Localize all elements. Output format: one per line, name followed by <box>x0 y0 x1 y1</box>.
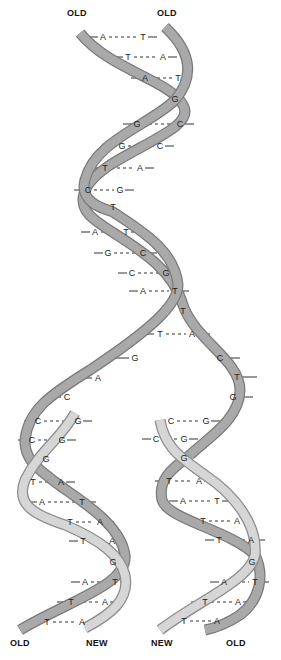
right-daughter-base: A <box>180 496 186 506</box>
right-daughter-base: G <box>248 557 255 567</box>
parent-base: C <box>85 185 92 195</box>
right-daughter-base: G <box>180 434 187 444</box>
fork-right-base: C <box>217 353 224 363</box>
fork-left-base: T <box>157 329 163 339</box>
left-daughter-base: G <box>58 435 65 445</box>
left-daughter-base: A <box>82 577 88 587</box>
right-daughter-base: T <box>181 616 187 626</box>
left-daughter-base: A <box>79 617 85 627</box>
left-daughter-base: G <box>74 416 81 426</box>
right-daughter-base: A <box>234 516 240 526</box>
right-daughter-base: T <box>200 516 206 526</box>
fork-right-base: G <box>229 392 236 402</box>
parent-base: T <box>110 202 116 212</box>
left-daughter-base: A <box>39 497 45 507</box>
parent-base: T <box>172 286 178 296</box>
parent-base: G <box>133 119 140 129</box>
right-daughter-base: T <box>252 577 258 587</box>
left-daughter-base: T <box>112 577 118 587</box>
right-daughter-base: T <box>166 476 172 486</box>
right-daughter-base: T <box>214 496 220 506</box>
left-daughter-base: T <box>67 517 73 527</box>
parent-base: T <box>175 73 181 83</box>
helix-drawing: ATTAATGGCGCTACGTATGCCGATTCGCGGTAATTATAGA… <box>0 0 281 660</box>
right-daughter-base: G <box>180 453 187 463</box>
left-daughter-base: T <box>30 477 36 487</box>
fork-left-base: G <box>131 353 138 363</box>
left-daughter-base: A <box>109 536 115 546</box>
right-daughter-base: T <box>216 535 222 545</box>
right-daughter-base: A <box>196 476 202 486</box>
parent-base: T <box>140 32 146 42</box>
parent-base: G <box>171 94 178 104</box>
parent-base: G <box>162 268 169 278</box>
parent-base: A <box>140 286 146 296</box>
parent-base: C <box>157 141 164 151</box>
parent-base: C <box>177 119 184 129</box>
right-daughter-base: C <box>168 416 175 426</box>
parent-base: C <box>140 248 147 258</box>
left-daughter-base: A <box>102 597 108 607</box>
right-daughter-base: A <box>221 577 227 587</box>
right-daughter-base: A <box>214 616 220 626</box>
parent-base: T <box>180 306 186 316</box>
parent-base: A <box>92 227 98 237</box>
left-daughter-base: T <box>80 536 86 546</box>
fork-left-base: A <box>95 373 101 383</box>
fork-left-base: A <box>189 329 195 339</box>
right-daughter-base: G <box>202 416 209 426</box>
left-daughter-base: A <box>97 517 103 527</box>
parent-base: T <box>102 163 108 173</box>
parent-base: G <box>104 248 111 258</box>
parent-base: T <box>123 227 129 237</box>
left-daughter-base: C <box>29 435 36 445</box>
right-daughter-base: T <box>202 597 208 607</box>
parent-base: G <box>116 185 123 195</box>
parent-base: T <box>125 52 131 62</box>
parent-base: G <box>118 141 125 151</box>
left-daughter-base: G <box>42 454 49 464</box>
right-daughter-base: A <box>248 535 254 545</box>
left-daughter-base: C <box>35 416 42 426</box>
right-daughter-base: C <box>153 434 160 444</box>
left-daughter-base: T <box>79 497 85 507</box>
parent-base: A <box>142 73 148 83</box>
left-daughter-base: G <box>109 557 116 567</box>
fork-left-base: C <box>64 392 71 402</box>
parent-base: A <box>160 52 166 62</box>
parent-base: A <box>100 32 106 42</box>
parent-base: C <box>129 268 136 278</box>
left-daughter-base: T <box>68 597 74 607</box>
fork-right-base: T <box>234 372 240 382</box>
left-daughter-base: A <box>58 477 64 487</box>
right-daughter-base: A <box>235 597 241 607</box>
parent-base: A <box>137 163 143 173</box>
left-daughter-base: T <box>44 617 50 627</box>
